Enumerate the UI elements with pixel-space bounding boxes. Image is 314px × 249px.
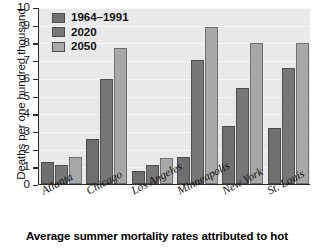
chart-caption: Average summer mortality rates attribute…	[0, 230, 314, 242]
bar	[236, 88, 249, 184]
y-tick-label: 8	[0, 37, 30, 49]
bar	[114, 48, 127, 184]
bar-group	[175, 8, 220, 184]
legend-item: 2020	[52, 27, 129, 39]
bar-group	[220, 8, 265, 184]
legend-swatch	[52, 27, 65, 37]
y-tick-label: 7	[0, 55, 30, 67]
y-tick-label: 6	[0, 73, 30, 85]
bar	[86, 139, 99, 184]
x-axis-labels: AtlantaChicagoLos AngelesMinneapolisNew …	[38, 186, 310, 228]
y-tick-label: 4	[0, 108, 30, 120]
bar	[191, 60, 204, 184]
bar	[100, 79, 113, 184]
y-tick-label: 1	[0, 161, 30, 173]
legend-label: 1964–1991	[71, 12, 129, 24]
chart-figure: Deaths per one hundred thousand 01234567…	[0, 0, 314, 249]
legend-swatch	[52, 42, 65, 52]
bar-group	[130, 8, 175, 184]
legend-item: 2050	[52, 41, 129, 53]
legend-item: 1964–1991	[52, 12, 129, 24]
bar	[296, 43, 309, 184]
y-tick-label: 9	[0, 20, 30, 32]
legend-label: 2020	[71, 27, 97, 39]
bar-group	[266, 8, 311, 184]
bar	[282, 68, 295, 184]
bar	[205, 27, 218, 184]
bar	[250, 43, 263, 184]
y-tick-label: 2	[0, 144, 30, 156]
y-tick-label: 5	[0, 91, 30, 103]
y-tick-label: 10	[0, 2, 30, 14]
bar	[222, 126, 235, 184]
legend-label: 2050	[71, 41, 97, 53]
legend: 1964–199120202050	[52, 12, 129, 56]
legend-swatch	[52, 13, 65, 23]
y-tick-label: 3	[0, 126, 30, 138]
y-tick-label: 0	[0, 179, 30, 191]
bar	[268, 128, 281, 184]
